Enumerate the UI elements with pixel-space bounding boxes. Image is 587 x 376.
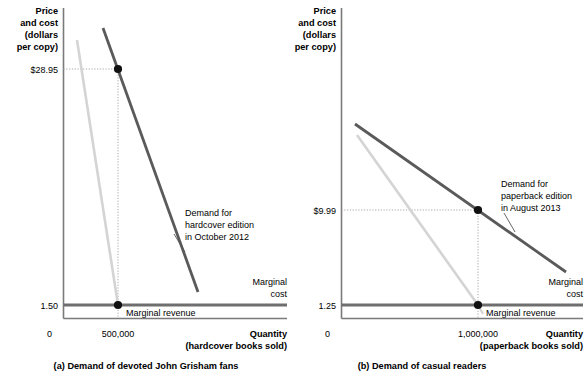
panel-a-devoted-fans: Price and cost (dollars per copy) $28.95… [0,0,293,376]
panel-a-price-point [114,65,122,73]
panel-b-x-axis-subtitle: (paperback books sold) [480,341,583,351]
panel-b-x-axis-title: Quantity [546,329,584,339]
panel-a-demand-annotation-line-2: hardcover edition [185,220,254,230]
panel-b-origin-label: 0 [325,329,330,339]
panel-b-y-axis-title-line-3: (dollars [303,30,336,40]
panel-b-y-tick-price: $9.99 [313,206,336,216]
panel-a-y-tick-price: $28.95 [30,65,58,75]
panel-b-marginal-cost-annotation-line-2: cost [566,289,583,299]
panel-a-y-axis-title-line-3: (dollars [25,30,58,40]
panel-b-y-axis-title-line-4: per copy) [295,42,336,52]
panel-a-mr-mc-point [114,301,122,309]
panel-a-y-axis-title-line-1: Price [36,6,58,16]
panel-a-y-axis-title-line-2: and cost [20,18,58,28]
panel-a-marginal-cost-annotation-line-2: cost [270,289,287,299]
panel-b-casual-readers: Price and cost (dollars per copy) $9.99 … [293,0,586,376]
panel-b-marginal-revenue-annotation: Marginal revenue [486,308,556,318]
panel-b-demand-annotation-line-3: in August 2013 [501,203,561,213]
panel-a-y-tick-marginal-cost: 1.50 [40,301,58,311]
panel-b-demand-annotation-line-2: paperback edition [501,191,572,201]
two-panel-price-discrimination-figure: Price and cost (dollars per copy) $28.95… [0,0,587,376]
panel-b-chart: Price and cost (dollars per copy) $9.99 … [293,0,587,376]
panel-b-y-axis-title-line-2: and cost [298,18,336,28]
panel-b-caption: (b) Demand of casual readers [358,361,487,371]
panel-a-x-axis-subtitle: (hardcover books sold) [185,341,287,351]
panel-a-marginal-revenue-line [77,40,118,305]
panel-b-marginal-revenue-line [357,135,478,305]
panel-a-caption: (a) Demand of devoted John Grisham fans [54,361,239,371]
panel-b-y-axis-title-line-1: Price [314,6,336,16]
panel-b-price-point [474,206,482,214]
panel-b-x-tick-quantity: 1,000,000 [458,329,498,339]
panel-a-y-axis-title-line-4: per copy) [17,42,58,52]
panel-b-y-tick-marginal-cost: 1.25 [318,301,336,311]
panel-b-mr-mc-point [474,301,482,309]
panel-a-demand-annotation-line-1: Demand for [185,208,232,218]
panel-b-demand-annotation-line-1: Demand for [501,179,548,189]
panel-a-origin-label: 0 [47,329,52,339]
panel-a-demand-annotation-line-3: in October 2012 [185,232,249,242]
panel-a-x-axis-title: Quantity [250,329,288,339]
panel-b-marginal-cost-annotation-line-1: Marginal [548,277,583,287]
panel-a-marginal-revenue-annotation: Marginal revenue [126,308,196,318]
panel-a-marginal-cost-annotation-line-1: Marginal [252,277,287,287]
panel-a-x-tick-quantity: 500,000 [102,329,135,339]
panel-a-chart: Price and cost (dollars per copy) $28.95… [0,0,293,376]
